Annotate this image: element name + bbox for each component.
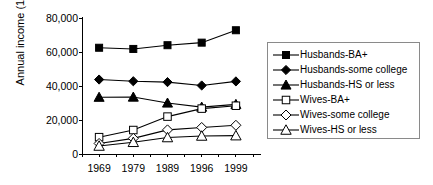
filled-triangle-icon [272,78,300,92]
open-diamond-icon [272,108,300,122]
legend-item[interactable]: Wives-HS or less [272,122,416,137]
open-square-icon [272,93,300,107]
data-point-marker [164,42,171,49]
data-series [95,75,241,90]
data-point-marker [283,51,290,58]
legend-item-label: Husbands-HS or less [300,79,394,91]
legend-item-label: Wives-BA+ [300,94,350,106]
legend-item[interactable]: Wives-some college [272,107,416,122]
open-triangle-icon [272,123,300,137]
data-point-marker [129,77,138,86]
legend-item[interactable]: Wives-BA+ [272,92,416,107]
data-point-marker [231,120,241,130]
x-axis-tick-label: 1999 [213,162,259,174]
data-series-layer [94,27,241,151]
legend-item-label: Husbands-some college [300,64,407,76]
data-point-marker [281,110,291,120]
chart-figure: Annual income (1999 $) 020,00040,00060,0… [0,0,433,185]
data-point-marker [282,96,290,104]
legend-item[interactable]: Husbands-BA+ [272,47,416,62]
data-point-marker [231,77,240,86]
data-point-marker [95,75,104,84]
data-series [94,92,241,111]
data-point-marker [163,77,172,86]
chart-legend: Husbands-BA+Husbands-some collegeHusband… [267,42,420,139]
legend-item[interactable]: Husbands-some college [272,62,416,77]
data-point-marker [96,44,103,51]
legend-item-label: Wives-some college [300,109,389,121]
filled-square-icon [272,48,300,62]
data-point-marker [281,65,290,74]
data-point-marker [197,81,206,90]
data-point-marker [164,113,172,121]
filled-diamond-icon [272,63,300,77]
data-point-marker [130,45,137,52]
data-point-marker [232,27,239,34]
data-point-marker [198,39,205,46]
legend-item-label: Husbands-BA+ [300,49,368,61]
data-point-marker [198,105,206,113]
legend-item-label: Wives-HS or less [300,124,377,136]
data-point-marker [232,102,240,110]
data-series [96,27,240,53]
legend-item[interactable]: Husbands-HS or less [272,77,416,92]
